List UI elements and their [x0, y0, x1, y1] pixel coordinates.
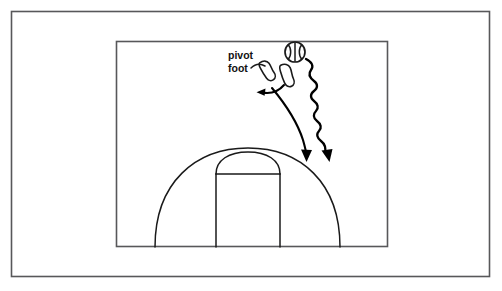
figure-root: pivot foot: [0, 0, 502, 291]
pivot-label-line2: foot: [228, 62, 248, 74]
basketball: [285, 42, 305, 62]
pivot-foot-diagram: pivot foot: [0, 0, 502, 291]
page-background: [0, 0, 502, 291]
pivot-label-line1: pivot: [228, 49, 254, 61]
